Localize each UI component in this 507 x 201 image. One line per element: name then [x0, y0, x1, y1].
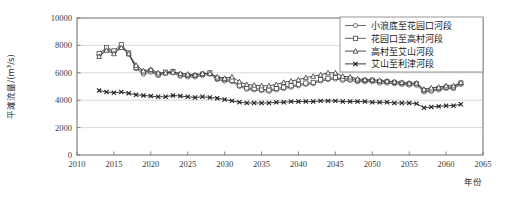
- square-marker: [289, 84, 293, 88]
- chart-container: 0200040006000800010000201020152020202520…: [0, 0, 507, 201]
- x-axis-tick-label: 2020: [142, 159, 159, 169]
- x-axis-tick-label: 2065: [475, 159, 492, 169]
- square-marker: [319, 78, 323, 82]
- bankfull-discharge-line-chart: 0200040006000800010000201020152020202520…: [0, 0, 507, 201]
- x-axis-tick-label: 2050: [364, 159, 381, 169]
- legend-item-label: 艾山至利津河段: [371, 58, 434, 69]
- x-axis-tick-label: 2015: [105, 159, 122, 169]
- x-axis-tick-label: 2040: [290, 159, 307, 169]
- y-axis-title: 平滩流量/(m³/s): [6, 54, 16, 118]
- square-marker: [353, 36, 357, 40]
- y-axis-tick-label: 8000: [55, 40, 72, 50]
- x-axis-tick-label: 2055: [401, 159, 418, 169]
- y-axis-tick-label: 4000: [55, 95, 72, 105]
- y-axis-tick-label: 6000: [55, 68, 72, 78]
- x-axis-tick-label: 2035: [253, 159, 270, 169]
- y-axis-tick-label: 10000: [51, 13, 72, 23]
- y-axis-tick-label: 2000: [55, 123, 72, 133]
- square-marker: [274, 86, 278, 90]
- square-marker: [296, 82, 300, 86]
- legend: 小浪底至花园口河段花园口至高村河段高村至艾山河段艾山至利津河段: [340, 17, 483, 72]
- x-axis-tick-label: 2030: [216, 159, 233, 169]
- square-marker: [267, 88, 271, 92]
- x-axis-title: 年份: [464, 177, 482, 187]
- square-marker: [304, 81, 308, 85]
- square-marker: [282, 85, 286, 89]
- square-marker: [311, 80, 315, 84]
- square-marker: [333, 75, 337, 79]
- x-axis-tick-label: 2060: [438, 159, 455, 169]
- square-marker: [326, 76, 330, 80]
- y-axis-ticks: 0200040006000800010000: [51, 13, 81, 160]
- circle-marker: [353, 23, 357, 27]
- legend-item-label: 高村至艾山河段: [371, 46, 434, 57]
- legend-item-label: 花园口至高村河段: [371, 33, 443, 44]
- x-axis-tick-label: 2045: [327, 159, 344, 169]
- x-axis-tick-label: 2025: [179, 159, 196, 169]
- x-axis-tick-label: 2010: [69, 159, 86, 169]
- legend-item-label: 小浪底至花园口河段: [371, 20, 452, 31]
